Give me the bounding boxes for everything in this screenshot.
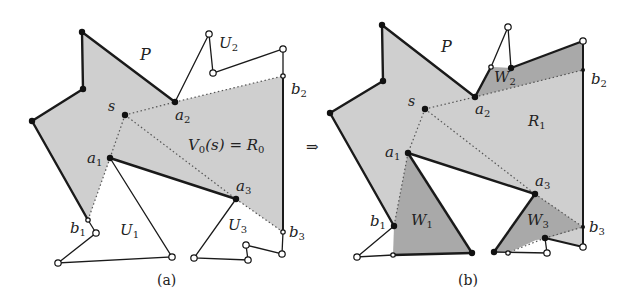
label-b1-b: b1 [370, 212, 386, 231]
label-p: P [139, 45, 151, 64]
panel-b: P W2 b2 s a2 R1 a1 a3 b1 W1 W3 b3 (b) [327, 22, 607, 288]
implies-arrow-icon: ⇒ [306, 138, 319, 156]
label-b1: b1 [70, 219, 86, 238]
point-s [122, 112, 128, 118]
label-p-b: P [440, 37, 452, 56]
label-u1: U1 [120, 221, 139, 240]
pocket-u1-remnant [357, 226, 394, 257]
caption-b: (b) [458, 272, 478, 288]
label-b3: b3 [289, 223, 305, 242]
caption-a: (a) [157, 272, 176, 288]
point-s-b [422, 106, 428, 112]
figure-canvas: P U2 b2 s a2 V0(s) = R0 a1 a3 b1 U1 U3 b… [0, 0, 636, 305]
label-u2: U2 [219, 34, 238, 53]
label-s: s [108, 98, 115, 114]
label-b3-b: b3 [589, 218, 605, 237]
label-b2: b2 [291, 80, 307, 99]
pocket-u2-remnant [491, 27, 511, 68]
label-b2-b: b2 [591, 70, 607, 89]
panel-a: P U2 b2 s a2 V0(s) = R0 a1 a3 b1 U1 U3 b… [29, 29, 307, 288]
label-u3: U3 [228, 216, 247, 235]
label-s-b: s [408, 93, 415, 109]
